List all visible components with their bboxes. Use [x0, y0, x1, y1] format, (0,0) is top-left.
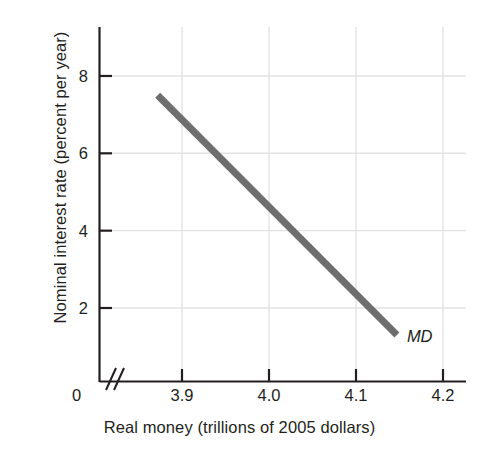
x-tick-label: 4.1 — [345, 386, 368, 404]
x-axis-ticks: 3.94.04.14.2 — [171, 369, 455, 404]
y-tick-label: 4 — [79, 222, 88, 240]
y-axis-ticks: 8642 — [79, 67, 112, 317]
x-tick-label: 4.0 — [258, 386, 281, 404]
x-tick-label: 3.9 — [171, 386, 194, 404]
y-tick-label: 8 — [79, 67, 88, 85]
axis-break-icon — [106, 368, 124, 390]
plot-canvas: 8642 3.94.04.14.2 MD — [0, 0, 479, 455]
y-tick-label: 6 — [79, 144, 88, 162]
y-tick-label: 2 — [79, 299, 88, 317]
demand-curve-line — [158, 95, 397, 335]
curve-label-md: MD — [407, 327, 433, 345]
money-demand-chart: Nominal interest rate (percent per year)… — [0, 0, 479, 455]
x-tick-label: 4.2 — [432, 386, 455, 404]
